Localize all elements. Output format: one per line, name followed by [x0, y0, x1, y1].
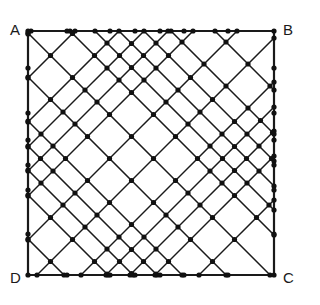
lattice-point-dot	[117, 53, 122, 58]
diagram-line	[144, 31, 274, 161]
lattice-point-dot	[210, 97, 215, 102]
square-border-group	[28, 31, 274, 275]
lattice-point-dot	[223, 83, 228, 88]
lattice-point-dot	[225, 28, 230, 33]
lattice-point-dot	[173, 178, 178, 183]
lattice-point-dot	[256, 168, 261, 173]
lattice-point-dot	[50, 168, 55, 173]
diagram-line	[28, 170, 133, 275]
lattice-point-dot	[210, 215, 215, 220]
lattice-point-dot	[38, 180, 43, 185]
lattice-point-dot	[254, 215, 259, 220]
lattice-point-dot	[60, 109, 65, 114]
lattice-point-dot	[151, 112, 156, 117]
lattice-point-dot	[234, 28, 239, 33]
lattice-point-dot	[151, 200, 156, 205]
lattice-point-dot	[190, 28, 195, 33]
lattice-point-dot	[132, 28, 137, 33]
diagram-line	[28, 239, 64, 275]
lattice-point-dot	[25, 162, 30, 167]
lattice-point-dot	[107, 156, 112, 161]
lattice-point-dot	[72, 121, 77, 126]
lattice-point-dot	[195, 156, 200, 161]
lattice-point-dot	[25, 272, 30, 277]
lattice-point-dot	[207, 143, 212, 148]
lattice-point-dot	[271, 187, 276, 192]
lattice-point-dot	[48, 259, 53, 264]
lattice-point-dot	[104, 40, 109, 45]
lattice-point-dot	[271, 35, 276, 40]
lattice-point-dot	[258, 118, 263, 123]
lattice-point-dot	[85, 178, 90, 183]
lattice-point-dot	[72, 190, 77, 195]
vertex-label-b: B	[283, 22, 293, 37]
lattice-point-dot	[60, 202, 65, 207]
lattice-point-dot	[153, 40, 158, 45]
lattice-point-dot	[269, 156, 274, 161]
diagram-line	[81, 82, 274, 275]
lattice-point-dot	[245, 61, 250, 66]
lattice-point-dot	[157, 272, 162, 277]
lattice-point-dot	[175, 224, 180, 229]
lattice-point-dot	[244, 131, 249, 136]
lattice-point-dot	[129, 247, 134, 252]
lattice-point-dot	[181, 28, 186, 33]
lattice-point-dot	[38, 131, 43, 136]
lattice-point-dot	[25, 168, 30, 173]
lattice-point-dot	[267, 83, 272, 88]
lattice-point-dot	[92, 53, 97, 58]
lattice-point-dot	[197, 202, 202, 207]
lattice-point-dot	[185, 121, 190, 126]
lattice-point-dot	[232, 144, 237, 149]
lattice-point-dot	[245, 105, 250, 110]
diagram-line	[70, 31, 274, 235]
diagram-line	[215, 31, 274, 90]
lattice-point-dot	[117, 259, 122, 264]
lattice-point-dot	[271, 272, 276, 277]
lattice-point-dot	[223, 39, 228, 44]
lattice-point-dot	[219, 131, 224, 136]
lattice-point-dot	[157, 28, 162, 33]
lattice-point-dot	[232, 119, 237, 124]
lattice-point-dot	[271, 162, 276, 167]
lattice-point-dot	[175, 87, 180, 92]
lattice-point-dot	[166, 259, 171, 264]
lattice-point-dot	[266, 202, 271, 207]
lattice-point-dot	[63, 156, 68, 161]
lattice-point-dot	[129, 178, 134, 183]
lattice-point-dot	[271, 137, 276, 142]
lattice-point-dot	[210, 259, 215, 264]
lattice-point-dot	[153, 246, 158, 251]
lattice-point-dot	[271, 207, 276, 212]
lattice-point-dot	[129, 65, 134, 70]
lattice-point-dot	[50, 143, 55, 148]
lattice-point-dot	[207, 168, 212, 173]
lattice-point-dot	[104, 65, 109, 70]
diagonal-lattice-group	[28, 31, 274, 275]
lattice-point-dot	[179, 39, 184, 44]
lattice-point-dot	[270, 130, 275, 135]
lattice-point-dot	[94, 212, 99, 217]
lattice-point-dot	[141, 53, 146, 58]
lattice-point-dot	[64, 28, 69, 33]
lattice-point-dot	[48, 97, 53, 102]
lattice-point-dot	[196, 272, 201, 277]
lattice-point-dot	[163, 99, 168, 104]
lattice-point-dot	[188, 75, 193, 80]
lattice-point-dot	[70, 31, 75, 36]
lattice-point-dot	[116, 234, 121, 239]
lattice-point-dot	[70, 75, 75, 80]
lattice-point-dot	[244, 156, 249, 161]
lattice-point-dot	[201, 61, 206, 66]
lattice-point-dot	[232, 193, 237, 198]
lattice-point-dot	[107, 200, 112, 205]
lattice-point-dot	[25, 137, 30, 142]
lattice-point-dot	[82, 224, 87, 229]
lattice-point-dot	[271, 65, 276, 70]
lattice-point-dot	[225, 272, 230, 277]
lattice-point-dot	[129, 222, 134, 227]
lattice-point-dot	[25, 144, 30, 149]
lattice-point-dot	[25, 28, 30, 33]
lattice-point-dot	[232, 168, 237, 173]
diagram-line	[199, 200, 274, 275]
